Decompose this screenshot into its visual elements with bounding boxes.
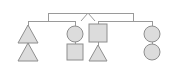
branch-2-top-circle-node xyxy=(67,26,83,42)
branch-3-bottom-triangle-node xyxy=(89,45,107,61)
apex-marker-layer xyxy=(81,13,95,21)
diagram-canvas xyxy=(0,0,177,68)
branch-4-bottom-circle-node xyxy=(144,44,160,60)
kinship-diagram xyxy=(0,0,177,68)
node-shapes xyxy=(18,24,160,61)
branch-3-top-square-node xyxy=(89,24,107,42)
branch-1-bottom-triangle-node xyxy=(18,43,38,61)
branch-4-top-circle-node xyxy=(144,26,160,42)
branch-1-top-triangle-node xyxy=(18,25,38,43)
descent-apex xyxy=(81,13,95,21)
branch-2-bottom-square-node xyxy=(67,44,83,60)
